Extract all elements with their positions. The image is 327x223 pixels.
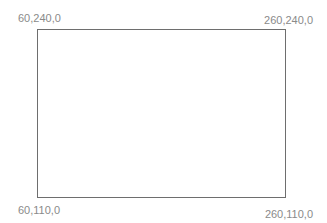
corner-label-top-right: 260,240,0 bbox=[264, 14, 313, 26]
rectangle-shape bbox=[37, 29, 286, 198]
corner-label-bottom-right: 260,110,0 bbox=[265, 208, 313, 220]
corner-label-top-left: 60,240,0 bbox=[18, 12, 61, 24]
corner-label-bottom-left: 60,110,0 bbox=[18, 204, 60, 216]
